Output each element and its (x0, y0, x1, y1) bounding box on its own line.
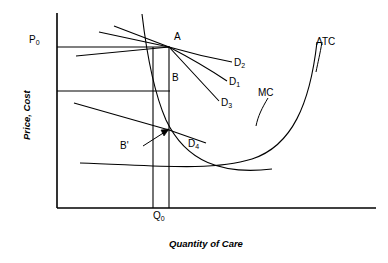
demand-curve-d4 (74, 103, 206, 143)
economics-chart-figure: P0 Q0 A B B' D2 D1 D3 D4 MC ATC Quantity… (0, 0, 388, 263)
curve-label-d2: D2 (234, 58, 245, 68)
price-axis-tick-p0: P0 (29, 35, 40, 45)
curve-label-d3: D3 (221, 98, 232, 108)
point-label-a: A (174, 32, 181, 42)
mc-leader-line (256, 98, 268, 126)
curve-label-atc: ATC (316, 37, 335, 47)
quantity-axis-tick-q0: Q0 (153, 211, 165, 221)
x-axis-title: Quantity of Care (169, 239, 243, 249)
b-prime-arrow (143, 129, 169, 146)
demand-curve-d2 (114, 26, 232, 62)
point-label-b-prime: B' (120, 141, 129, 151)
y-axis-title: Price, Cost (22, 90, 32, 140)
marginal-cost-curve (142, 14, 272, 170)
point-label-b: B (172, 73, 179, 83)
curve-label-d1: D1 (229, 77, 240, 87)
curve-label-d4: D4 (188, 139, 199, 149)
curve-label-mc: MC (258, 88, 274, 98)
